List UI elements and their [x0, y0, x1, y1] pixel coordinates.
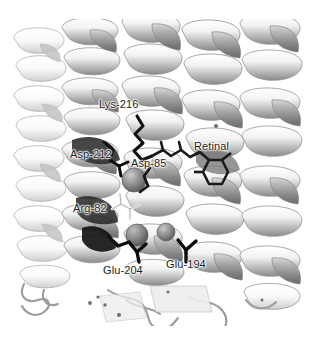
residue-label-arg82: Arg-82: [73, 203, 107, 214]
water-dot-upper-right: [214, 124, 218, 128]
residue-label-asp85: Asp-85: [131, 158, 166, 169]
water-dot-center-bottom: [167, 291, 170, 294]
residue-label-asp212: Asp-212: [70, 149, 112, 160]
water-central: [122, 168, 146, 192]
residue-label-lys216: Lys-216: [99, 99, 138, 110]
water-dot-lower-b: [96, 295, 99, 298]
residue-label-glu194: Glu-194: [166, 259, 206, 270]
water-right: [157, 223, 175, 241]
molecular-structure-figure: Lys-216 Asp-212 Asp-85 Retinal Arg-82 Gl…: [0, 0, 314, 342]
water-dot-lower-a: [88, 301, 92, 305]
helix-left-outer: [14, 28, 70, 288]
water-dot-lower-c: [103, 303, 106, 306]
residue-label-retinal: Retinal: [194, 141, 229, 152]
water-dot-lower-d: [117, 313, 121, 317]
molecular-scene: [0, 0, 314, 342]
water-dot-right-lower: [261, 299, 264, 302]
residue-label-glu204: Glu-204: [103, 265, 143, 276]
